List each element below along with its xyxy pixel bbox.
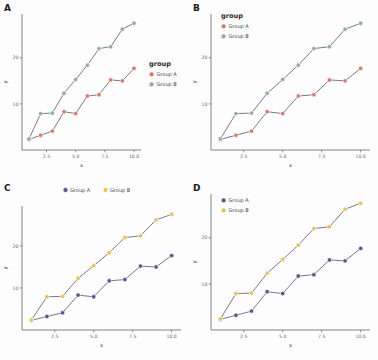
data-point xyxy=(92,295,96,299)
data-point xyxy=(50,129,54,133)
panel-label-c: C xyxy=(4,183,11,193)
data-point xyxy=(45,295,49,299)
y-axis-title: y xyxy=(2,80,9,83)
plot-area-d: 10202.55.07.510.0xyGroup AGroup B xyxy=(189,180,378,360)
data-point xyxy=(312,226,316,230)
data-point xyxy=(60,311,64,315)
data-point xyxy=(123,235,127,239)
data-point xyxy=(343,27,347,31)
legend-label[interactable]: Group A xyxy=(229,197,250,204)
y-tick-label: 10 xyxy=(13,102,19,107)
series-group-a xyxy=(218,66,363,141)
axes: 10202.55.07.510.0 xyxy=(202,194,370,339)
data-point xyxy=(249,309,253,313)
x-axis-title: x xyxy=(289,342,292,348)
legend-c[interactable]: Group AGroup B xyxy=(63,187,131,194)
data-point xyxy=(73,77,77,81)
series-group-a xyxy=(27,66,136,141)
legend-swatch[interactable] xyxy=(221,198,226,203)
legend-swatch[interactable] xyxy=(149,82,154,87)
data-point xyxy=(358,21,362,25)
y-tick-label: 20 xyxy=(202,55,208,60)
series-line xyxy=(220,68,360,139)
legend-label[interactable]: Group A xyxy=(70,187,91,194)
axes: 10202.55.07.510.0 xyxy=(202,14,370,159)
x-tick-label: 10.0 xyxy=(129,154,139,159)
legend-swatch[interactable] xyxy=(103,188,108,193)
legend-title: group xyxy=(149,60,171,68)
data-point xyxy=(234,133,238,137)
x-tick-label: 5.0 xyxy=(72,154,79,159)
series-group-b xyxy=(218,201,363,321)
legend-swatch[interactable] xyxy=(221,24,226,29)
series-line xyxy=(220,23,360,139)
legend-d[interactable]: Group AGroup B xyxy=(221,197,249,214)
legend-swatch[interactable] xyxy=(221,34,226,39)
data-point xyxy=(249,291,253,295)
x-axis-title: x xyxy=(289,162,292,168)
data-point xyxy=(154,218,158,222)
y-axis-title: y xyxy=(191,260,198,263)
data-point xyxy=(281,111,285,115)
legend-a[interactable]: groupGroup AGroup B xyxy=(149,60,177,88)
axes: 10202.55.07.510.0 xyxy=(13,14,141,159)
data-point xyxy=(120,79,124,83)
data-point xyxy=(132,66,136,70)
panel-label-d: D xyxy=(193,183,201,193)
x-axis-title: x xyxy=(80,162,83,168)
series-group-b xyxy=(27,21,136,141)
x-axis-title: x xyxy=(100,342,103,348)
data-point xyxy=(312,272,316,276)
data-point xyxy=(343,207,347,211)
x-tick-label: 5.0 xyxy=(279,154,286,159)
y-axis-title: y xyxy=(2,266,9,269)
x-tick-label: 2.5 xyxy=(240,154,247,159)
figure-panel-grid: A10202.55.07.510.0xygroupGroup AGroup BB… xyxy=(0,0,378,360)
data-point xyxy=(29,318,33,322)
data-point xyxy=(312,92,316,96)
legend-label[interactable]: Group B xyxy=(157,81,178,88)
legend-label[interactable]: Group A xyxy=(157,71,178,78)
data-point xyxy=(281,77,285,81)
legend-label[interactable]: Group B xyxy=(110,187,131,194)
data-point xyxy=(249,111,253,115)
data-point xyxy=(296,274,300,278)
legend-swatch[interactable] xyxy=(221,208,226,213)
x-tick-label: 10.0 xyxy=(356,154,366,159)
legend-label[interactable]: Group A xyxy=(229,23,250,30)
data-point xyxy=(138,234,142,238)
series-line xyxy=(220,248,360,319)
legend-swatch[interactable] xyxy=(149,72,154,77)
data-point xyxy=(62,91,66,95)
x-tick-label: 7.5 xyxy=(101,154,108,159)
legend-label[interactable]: Group B xyxy=(229,33,250,40)
data-point xyxy=(107,279,111,283)
legend-b[interactable]: groupGroup AGroup B xyxy=(221,12,249,40)
data-point xyxy=(60,294,64,298)
data-point xyxy=(218,317,222,321)
data-point xyxy=(265,290,269,294)
x-tick-label: 10.0 xyxy=(167,334,177,339)
series-group-a xyxy=(29,253,174,322)
data-point xyxy=(234,111,238,115)
data-point xyxy=(108,78,112,82)
data-point xyxy=(108,45,112,49)
legend-swatch[interactable] xyxy=(63,188,68,193)
data-point xyxy=(73,111,77,115)
data-point xyxy=(107,250,111,254)
legend-label[interactable]: Group B xyxy=(229,207,250,214)
x-tick-label: 10.0 xyxy=(356,334,366,339)
data-point xyxy=(38,111,42,115)
x-tick-label: 2.5 xyxy=(240,334,247,339)
data-point xyxy=(358,246,362,250)
series-line xyxy=(31,256,171,321)
series-line xyxy=(220,203,360,319)
x-tick-label: 7.5 xyxy=(129,334,136,339)
plot-area-b: 10202.55.07.510.0xygroupGroup AGroup B xyxy=(189,0,378,180)
x-tick-label: 2.5 xyxy=(51,334,58,339)
data-point xyxy=(218,137,222,141)
data-point xyxy=(249,129,253,133)
data-point xyxy=(327,78,331,82)
data-point xyxy=(265,91,269,95)
data-point xyxy=(343,79,347,83)
